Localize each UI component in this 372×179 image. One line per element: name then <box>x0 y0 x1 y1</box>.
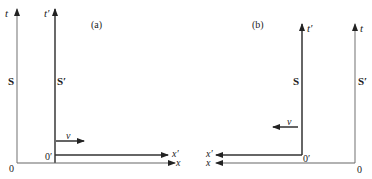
reference-frames-diagram: t t′ (a) S S′ v 0′ 0 x′ x (b) t′ t S S′ … <box>0 0 372 179</box>
origin-prime-label-b: 0′ <box>303 153 310 164</box>
panel-a-caption: (a) <box>91 19 102 31</box>
frame-S-label: S <box>8 75 14 87</box>
x-axis-label: x <box>175 157 181 168</box>
t-axis-label-b: t <box>360 22 364 34</box>
frame-S-prime-label: S′ <box>57 75 66 87</box>
frame-S-prime-label-b: S′ <box>358 75 367 87</box>
velocity-label-b: v <box>287 116 292 127</box>
t-axis-label: t <box>5 7 9 19</box>
t-prime-axis-label: t′ <box>44 7 50 19</box>
x-axis-label-b: x <box>205 157 211 168</box>
origin-label-b: 0 <box>357 164 362 175</box>
velocity-label: v <box>66 130 71 141</box>
panel-b <box>216 24 355 163</box>
panel-b-caption: (b) <box>252 19 264 31</box>
t-prime-axis-label-b: t′ <box>307 22 313 34</box>
origin-prime-label: 0′ <box>45 151 52 162</box>
frame-S-label-b: S <box>293 75 299 87</box>
origin-label: 0 <box>9 163 14 174</box>
panel-a <box>17 9 175 163</box>
